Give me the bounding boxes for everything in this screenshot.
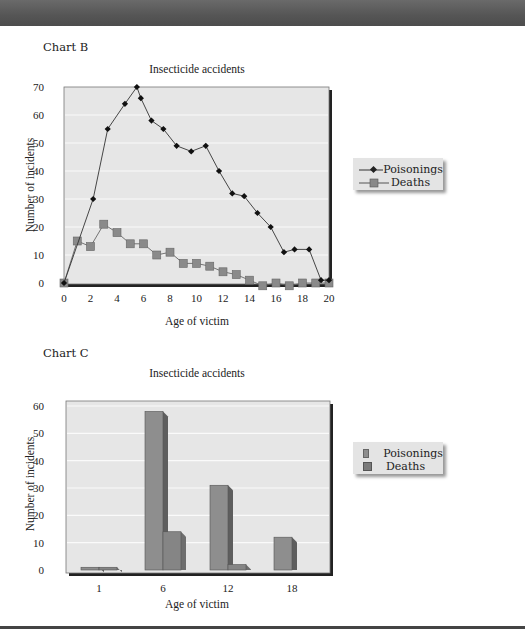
y-tick-label: 70 [33, 81, 45, 93]
y-tick-label: 60 [33, 109, 45, 121]
chart-c-bar-chart: Insecticide accidents 0102030405060 1612… [0, 360, 525, 620]
deaths-bar [163, 532, 181, 570]
y-tick-label: 0 [39, 564, 45, 576]
chart-b-title: Insecticide accidents [149, 63, 245, 75]
chart-c-label: Chart C [43, 346, 89, 360]
deaths-data-point [140, 240, 148, 248]
x-tick-label: 8 [167, 292, 173, 304]
y-tick-label: 10 [33, 249, 45, 261]
diamond-line-icon [357, 165, 383, 175]
chart-c-legend: Poisonings Deaths [353, 442, 443, 474]
deaths-bar [228, 565, 246, 570]
deaths-data-point [272, 279, 280, 287]
chart-c-y-axis-label: Number of incidents [24, 436, 36, 531]
x-tick-label: 12 [223, 582, 234, 594]
chart-b-legend: Poisonings Deaths [353, 158, 443, 190]
deaths-data-point [87, 243, 95, 251]
deaths-data-point [100, 220, 108, 228]
chart-b-y-axis-label: Number of incidents [24, 137, 36, 232]
legend-item-poisonings: Poisonings [363, 447, 443, 460]
poisonings-bar [81, 567, 99, 570]
legend-item-deaths: Deaths [363, 460, 443, 473]
deaths-data-point [113, 229, 121, 237]
deaths-data-point [193, 259, 201, 267]
x-tick-label: 6 [141, 292, 147, 304]
poisonings-bar [145, 411, 163, 570]
poisonings-bar [274, 537, 292, 570]
x-tick-label: 10 [191, 292, 203, 304]
deaths-data-point [285, 282, 293, 290]
legend-item-deaths: Deaths [357, 176, 443, 189]
deaths-data-point [153, 251, 161, 259]
deaths-data-point [246, 276, 254, 284]
x-tick-label: 18 [297, 292, 309, 304]
legend-item-poisonings: Poisonings [357, 163, 443, 176]
x-tick-label: 16 [271, 292, 283, 304]
y-tick-label: 10 [33, 537, 45, 549]
y-tick-label: 60 [33, 400, 45, 412]
x-tick-label: 6 [160, 582, 166, 594]
square-swatch-icon [363, 462, 372, 471]
x-tick-label: 0 [61, 292, 67, 304]
deaths-data-point [206, 262, 214, 270]
chart-c-x-axis-label: Age of victim [165, 598, 229, 611]
chart-b-x-axis-label: Age of victim [165, 315, 229, 328]
deaths-data-point [299, 279, 307, 287]
x-tick-label: 4 [114, 292, 120, 304]
deaths-data-point [219, 268, 227, 276]
deaths-data-point [259, 282, 267, 290]
x-tick-label: 20 [324, 292, 336, 304]
deaths-data-point [179, 259, 187, 267]
poisonings-bar [210, 485, 228, 570]
chart-b-line-chart: Insecticide accidents 010203040506070 02… [0, 0, 525, 330]
square-line-icon [357, 178, 391, 188]
y-tick-label: 0 [39, 277, 45, 289]
deaths-data-point [232, 271, 240, 279]
deaths-bar [99, 567, 117, 570]
x-tick-label: 2 [88, 292, 94, 304]
deaths-data-point [126, 240, 134, 248]
bottom-divider [0, 626, 525, 629]
deaths-data-point [166, 248, 174, 256]
x-tick-label: 14 [244, 292, 256, 304]
chart-c-title: Insecticide accidents [149, 367, 245, 379]
x-tick-label: 1 [96, 582, 102, 594]
x-tick-label: 12 [218, 292, 229, 304]
square-swatch-icon [363, 449, 369, 458]
x-tick-label: 18 [287, 582, 299, 594]
